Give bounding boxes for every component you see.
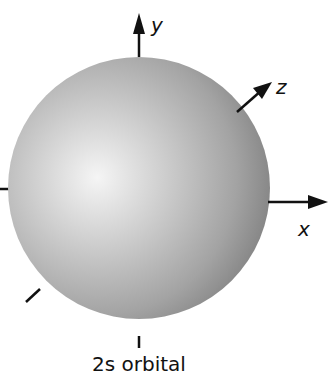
z-axis-negative-stub bbox=[26, 289, 40, 302]
2s-orbital-sphere bbox=[8, 57, 270, 319]
x-axis-label: x bbox=[297, 217, 310, 241]
orbital-caption: 2s orbital bbox=[0, 352, 278, 375]
y-axis-arrow-icon bbox=[133, 13, 145, 34]
x-axis: x bbox=[268, 195, 328, 241]
z-axis-label: z bbox=[275, 75, 287, 99]
y-axis-label: y bbox=[150, 13, 164, 37]
x-axis-arrow-icon bbox=[308, 195, 328, 209]
orbital-diagram: y x z bbox=[0, 0, 330, 375]
y-axis: y bbox=[133, 13, 164, 57]
z-axis: z bbox=[237, 75, 287, 112]
